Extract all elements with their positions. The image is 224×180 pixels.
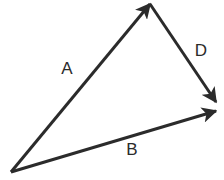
vector-label-d: D	[195, 41, 207, 60]
vector-label-a: A	[61, 59, 73, 78]
vector-label-b: B	[126, 140, 137, 159]
vector-diagram: A D B	[0, 0, 224, 180]
vector-group-d: D	[150, 4, 216, 102]
vector-group-b: B	[11, 111, 216, 172]
vector-arrow-b	[11, 111, 216, 172]
vector-diagram-canvas: A D B	[0, 0, 224, 180]
